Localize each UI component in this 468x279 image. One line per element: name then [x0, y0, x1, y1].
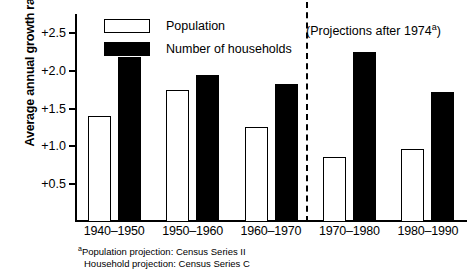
- footnote-text-1: Population projection: Census Series II: [82, 246, 246, 257]
- chart-root: Average annual growth rate Population Nu…: [0, 0, 468, 279]
- chart-footnote: aPopulation projection: Census Series II…: [78, 243, 250, 269]
- bar-population: [401, 149, 424, 222]
- y-tick-mark: [69, 70, 77, 72]
- y-tick-label: +2.0: [41, 64, 66, 77]
- bar-households: [275, 84, 298, 222]
- y-axis-title: Average annual growth rate: [23, 0, 37, 167]
- bar-households: [118, 57, 141, 222]
- bar-households: [196, 75, 219, 222]
- plot-area: +2.5+2.0+1.5+1.0+0.5 1940–19501950–19601…: [75, 14, 467, 222]
- bar-population: [166, 90, 189, 222]
- x-axis-label: 1940–1950: [84, 224, 145, 238]
- y-tick-mark: [69, 145, 77, 147]
- x-axis-label: 1970–1980: [319, 224, 380, 238]
- bar-population: [323, 157, 346, 222]
- y-tick-label: +1.5: [41, 102, 66, 115]
- y-tick-label: +0.5: [41, 178, 66, 191]
- y-tick-label: +1.0: [41, 140, 66, 153]
- footnote-line-2: Household projection: Census Series C: [78, 258, 250, 270]
- bar-population: [88, 116, 111, 222]
- footnote-line-1: aPopulation projection: Census Series II: [78, 243, 250, 258]
- y-tick-mark: [69, 108, 77, 110]
- x-axis-label: 1960–1970: [241, 224, 302, 238]
- y-tick-mark: [69, 32, 77, 34]
- x-axis-label: 1980–1990: [397, 224, 458, 238]
- projection-divider: [306, 2, 308, 222]
- bar-population: [245, 127, 268, 222]
- y-axis-line: [75, 14, 77, 222]
- y-tick-label: +2.5: [41, 27, 66, 40]
- bar-households: [353, 52, 376, 222]
- x-axis-label: 1950–1960: [162, 224, 223, 238]
- y-tick-mark: [69, 183, 77, 185]
- bar-households: [431, 92, 454, 222]
